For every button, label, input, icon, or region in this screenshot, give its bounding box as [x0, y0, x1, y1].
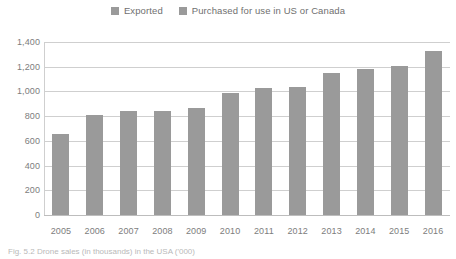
chart-legend: Exported Purchased for use in US or Cana… [0, 5, 456, 16]
x-axis-tick-label: 2009 [186, 226, 206, 236]
bar-slot [78, 42, 112, 215]
x-axis-tick-slot: 2012 [281, 220, 315, 238]
bar-slot [348, 42, 382, 215]
x-axis-tick-label: 2011 [254, 226, 274, 236]
plot-area [44, 42, 450, 215]
legend-label-purchased: Purchased for use in US or Canada [192, 5, 345, 16]
bar-2008[interactable] [154, 111, 171, 215]
y-axis-tick-label: 1,200 [17, 62, 40, 72]
bar-slot [44, 42, 78, 215]
x-axis-tick-slot: 2011 [247, 220, 281, 238]
x-axis-tick-label: 2007 [118, 226, 138, 236]
y-axis-tick-label: 600 [25, 136, 40, 146]
x-axis-tick-slot: 2014 [348, 220, 382, 238]
x-axis-tick-slot: 2010 [213, 220, 247, 238]
bar-slot [315, 42, 349, 215]
x-axis-tick-slot: 2008 [145, 220, 179, 238]
x-axis-tick-label: 2008 [152, 226, 172, 236]
bar-2015[interactable] [391, 66, 408, 215]
y-axis-tick-label: 0 [35, 210, 40, 220]
bar-2007[interactable] [120, 111, 137, 215]
bar-2012[interactable] [289, 87, 306, 215]
bar-slot [213, 42, 247, 215]
legend-label-exported: Exported [124, 5, 163, 16]
x-axis-labels: 2005200620072008200920102011201220132014… [44, 220, 450, 238]
bar-slot [112, 42, 146, 215]
bar-2014[interactable] [357, 69, 374, 215]
y-axis-tick-label: 1,400 [17, 37, 40, 47]
x-axis-tick-label: 2005 [51, 226, 71, 236]
x-axis-tick-label: 2012 [288, 226, 308, 236]
bar-chart: 1,4001,2001,0008006004002000 20052006200… [0, 28, 456, 233]
y-axis-tick-label: 400 [25, 161, 40, 171]
x-axis-tick-slot: 2013 [315, 220, 349, 238]
x-axis-tick-slot: 2007 [112, 220, 146, 238]
bar-slot [179, 42, 213, 215]
y-axis-tick-label: 800 [25, 111, 40, 121]
x-axis-tick-slot: 2015 [382, 220, 416, 238]
y-axis-tick-label: 200 [25, 185, 40, 195]
bar-2010[interactable] [222, 93, 239, 215]
x-axis-tick-slot: 2005 [44, 220, 78, 238]
x-axis-tick-label: 2013 [321, 226, 341, 236]
bar-2009[interactable] [188, 108, 205, 216]
x-axis-tick-slot: 2006 [78, 220, 112, 238]
bar-series [44, 42, 450, 215]
bar-slot [281, 42, 315, 215]
figure-caption: Fig. 5.2 Drone sales (in thousands) in t… [8, 247, 448, 256]
legend-entry-purchased: Purchased for use in US or Canada [179, 5, 345, 16]
x-axis-tick-label: 2014 [355, 226, 375, 236]
x-axis-tick-label: 2015 [389, 226, 409, 236]
x-axis-tick-slot: 2009 [179, 220, 213, 238]
bar-2005[interactable] [52, 134, 69, 215]
bar-2013[interactable] [323, 73, 340, 215]
square-swatch-icon [111, 7, 119, 15]
y-axis-tick-label: 1,000 [17, 86, 40, 96]
bar-slot [145, 42, 179, 215]
bar-slot [416, 42, 450, 215]
legend-entry-exported: Exported [111, 5, 163, 16]
x-axis-tick-slot: 2016 [416, 220, 450, 238]
x-axis-tick-label: 2006 [85, 226, 105, 236]
y-axis-labels: 1,4001,2001,0008006004002000 [6, 28, 40, 215]
x-axis-tick-label: 2016 [423, 226, 443, 236]
square-swatch-icon [179, 7, 187, 15]
axis-baseline [44, 215, 450, 216]
bar-slot [382, 42, 416, 215]
bar-2016[interactable] [425, 51, 442, 215]
bar-2006[interactable] [86, 115, 103, 215]
bar-2011[interactable] [255, 88, 272, 215]
bar-slot [247, 42, 281, 215]
x-axis-tick-label: 2010 [220, 226, 240, 236]
